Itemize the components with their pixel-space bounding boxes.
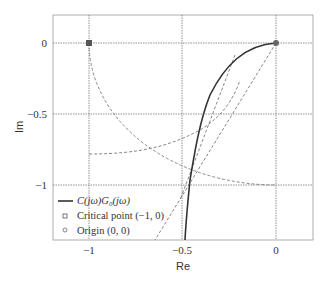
legend-label: Origin (0, 0) [77,225,130,237]
origin-marker [273,40,279,46]
ytick-label: 0 [42,37,48,49]
nyquist-chart: −1 −0.5 0 0 −0.5 −1 Re Im C(jω)G₀(jω) Cr… [0,0,329,281]
plot-frame [53,15,313,240]
ytick-label: −1 [35,179,47,191]
xtick-label: −1 [83,244,95,256]
xtick-label: −0.5 [172,244,192,256]
legend-label: C(jω)G₀(jω) [77,195,130,207]
legend-label: Critical point (−1, 0) [77,210,164,222]
y-axis-label: Im [13,121,25,133]
ytick-label: −0.5 [27,108,47,120]
x-axis-label: Re [176,260,190,272]
xtick-label: 0 [273,244,279,256]
critical-point-marker [86,40,92,46]
